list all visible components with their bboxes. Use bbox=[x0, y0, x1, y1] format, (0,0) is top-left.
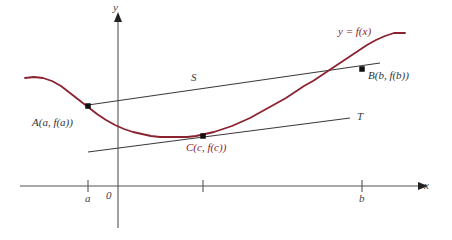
secant-line-s bbox=[88, 63, 380, 105]
tick-label-a: a bbox=[85, 193, 91, 204]
curve-label-y-equals-fx: y = f(x) bbox=[338, 26, 371, 37]
mean-value-theorem-figure: y x 0 a b y = f(x) S T A(a, f(a)) B(b, f… bbox=[0, 0, 452, 240]
y-axis-label: y bbox=[113, 2, 118, 13]
tangent-label-t: T bbox=[357, 111, 363, 122]
function-curve bbox=[25, 33, 405, 137]
x-axis-label: x bbox=[424, 180, 429, 191]
point-marker-a bbox=[85, 103, 91, 109]
tick-label-b: b bbox=[359, 193, 365, 204]
origin-label: 0 bbox=[106, 190, 112, 201]
point-label-c: C(c, f(c)) bbox=[186, 142, 226, 153]
secant-label-s: S bbox=[191, 72, 197, 83]
point-label-a: A(a, f(a)) bbox=[32, 117, 73, 128]
point-marker-b bbox=[359, 66, 365, 72]
y-axis-arrow-icon bbox=[114, 12, 122, 22]
point-label-b: B(b, f(b)) bbox=[368, 70, 409, 81]
point-marker-c bbox=[200, 133, 206, 139]
